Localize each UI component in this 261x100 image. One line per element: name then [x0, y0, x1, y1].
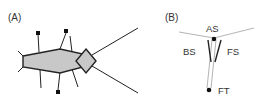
panel-b-label: (B) — [165, 12, 178, 23]
panel-a-label: (A) — [8, 12, 21, 23]
line-upper-right — [92, 28, 138, 55]
tail-tick-upper — [18, 51, 23, 56]
leg-bottom-left — [40, 70, 41, 88]
leg-bottom-middle — [58, 72, 60, 90]
leg-top-middle — [60, 33, 66, 49]
line-lower-right — [92, 66, 138, 93]
joint-as — [212, 37, 217, 42]
body-hexagon — [23, 49, 83, 73]
leg-bottom-middle-marker — [56, 90, 60, 94]
leg-top-left-marker — [36, 31, 40, 35]
panel-a: (A) — [8, 12, 138, 94]
panel-b: (B) AS BS FS FT — [165, 12, 254, 96]
leg-top-right — [70, 36, 72, 52]
leg-bottom-right — [72, 69, 78, 87]
label-as: AS — [206, 23, 219, 34]
tail-tick-lower — [18, 67, 23, 72]
joint-ft — [207, 88, 212, 93]
gray-line-right — [214, 28, 254, 38]
label-ft: FT — [218, 85, 230, 96]
leg-top-left — [38, 34, 39, 52]
figure: (A) (B) AS — [0, 0, 261, 100]
diagram-canvas: (A) (B) AS — [0, 0, 261, 100]
label-bs: BS — [183, 46, 196, 57]
leg-top-middle-marker — [64, 29, 68, 33]
label-fs: FS — [227, 46, 239, 57]
